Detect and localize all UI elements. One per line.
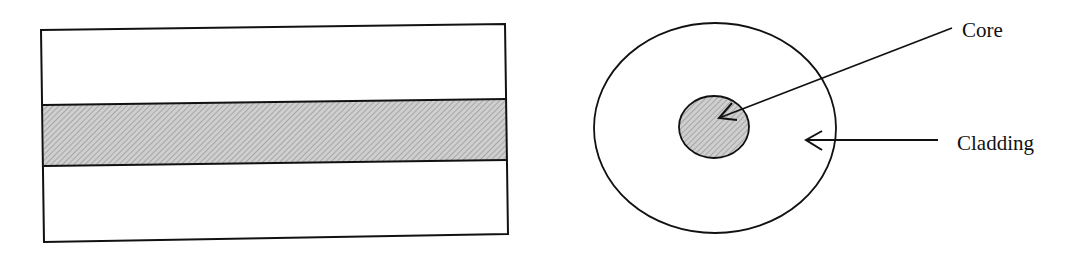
core-circle [679,96,749,158]
core-band [43,99,507,166]
core-arrow [719,28,952,120]
cross-section-view [594,23,836,233]
longitudinal-view [41,24,508,242]
core-label: Core [962,20,1003,41]
fiber-diagram [0,0,1092,255]
cladding-arrow [806,131,938,150]
cladding-label: Cladding [957,133,1034,154]
